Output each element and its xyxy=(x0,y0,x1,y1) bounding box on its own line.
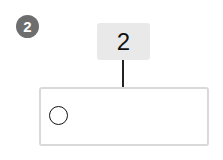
empty-circle-icon[interactable] xyxy=(49,106,68,125)
connector-line xyxy=(122,60,124,88)
label-box: 2 xyxy=(97,23,150,60)
answer-box[interactable] xyxy=(39,87,209,146)
question-number-badge: 2 xyxy=(16,15,39,38)
